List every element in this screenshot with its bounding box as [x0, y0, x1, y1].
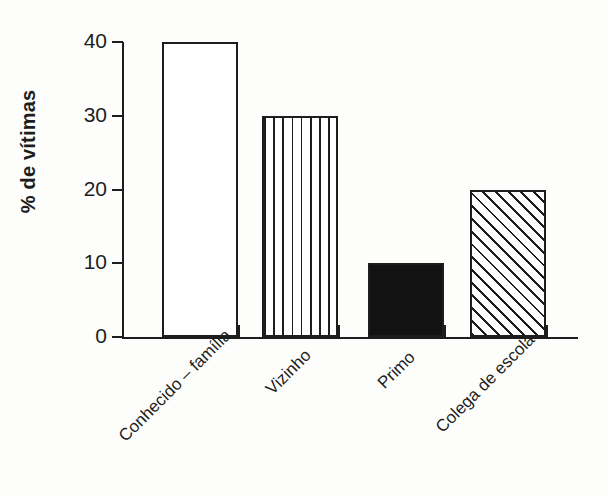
- x-axis-label-3: Colega de escola: [432, 330, 539, 437]
- x-axis-label-2: Primo: [374, 348, 420, 394]
- bar-3: [470, 190, 546, 338]
- x-axis-label-0: Conhecido – família: [115, 326, 235, 446]
- bar-1: [262, 116, 338, 337]
- bars-group: [0, 0, 608, 339]
- x-axis-label-1: Vizinho: [262, 346, 315, 399]
- bar-0: [162, 42, 238, 337]
- bar-2: [368, 263, 444, 337]
- bar-chart-figure: % de vítimas 010203040 Conhecido – famíl…: [0, 0, 608, 496]
